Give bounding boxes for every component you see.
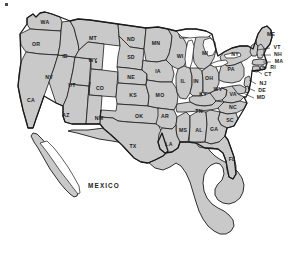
state-CO[interactable] (89, 69, 118, 97)
state-label-GA: GA (210, 127, 218, 132)
state-label-IA: IA (155, 69, 161, 74)
state-label-OR: OR (32, 42, 40, 47)
state-NH[interactable] (257, 44, 264, 58)
state-label-MO: MO (156, 93, 165, 98)
state-label-WA: WA (41, 20, 50, 25)
state-label-DE: DE (258, 88, 266, 93)
state-label-VA: VA (229, 92, 236, 97)
state-label-IN: IN (193, 79, 199, 84)
state-label-NC: NC (229, 105, 237, 110)
state-label-NM: NM (95, 116, 103, 121)
state-label-MD: MD (257, 95, 265, 100)
state-label-NJ: NJ (259, 81, 266, 86)
state-label-KY: KY (199, 92, 207, 97)
scan-speck-0 (5, 3, 8, 6)
state-label-NH: NH (274, 52, 282, 57)
baja-california[interactable] (31, 133, 78, 197)
state-label-ND: ND (127, 37, 135, 42)
scan-speck-1 (95, 61, 97, 63)
map-container: WAORIDMTNDSDMNWIMIWYNVUTCONEIAKSMOILINOH… (0, 0, 297, 256)
state-OR[interactable] (20, 29, 61, 55)
state-label-OH: OH (205, 76, 213, 81)
state-label-KS: KS (129, 93, 137, 98)
state-label-TN: TN (195, 109, 202, 114)
us-map-svg[interactable] (0, 0, 297, 256)
state-label-MI: MI (202, 51, 208, 56)
state-label-IL: IL (180, 79, 185, 84)
country-label-mexico: MEXICO (88, 183, 120, 189)
state-label-RI: RI (270, 65, 276, 70)
state-label-CA: CA (27, 98, 35, 103)
state-label-AL: AL (195, 128, 202, 133)
state-label-WI: WI (177, 54, 184, 59)
state-label-AZ: AZ (62, 113, 69, 118)
state-label-UT: UT (68, 83, 75, 88)
state-label-ID: ID (62, 54, 68, 59)
state-label-NV: NV (45, 75, 53, 80)
state-label-AR: AR (161, 114, 169, 119)
state-label-SD: SD (127, 55, 135, 60)
state-label-ME: ME (267, 32, 275, 37)
state-label-NY: NY (231, 52, 239, 57)
state-label-MN: MN (152, 41, 160, 46)
state-label-MT: MT (89, 36, 97, 41)
state-label-TX: TX (129, 144, 136, 149)
state-label-OK: OK (135, 114, 143, 119)
state-label-CT: CT (264, 72, 271, 77)
state-label-VT: VT (273, 45, 280, 50)
gulf-of-california (40, 141, 80, 194)
state-label-NE: NE (127, 75, 135, 80)
state-label-SC: SC (226, 118, 234, 123)
state-label-PA: PA (227, 67, 234, 72)
state-label-WV: WV (214, 87, 223, 92)
state-label-CO: CO (96, 86, 104, 91)
state-label-MS: MS (179, 128, 187, 133)
state-label-FL: FL (229, 157, 236, 162)
state-label-LA: LA (165, 142, 172, 147)
